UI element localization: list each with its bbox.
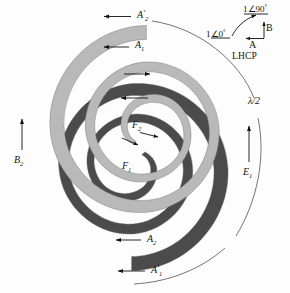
label-e1-sub: 1 xyxy=(249,172,252,179)
phasor-axis-b-label: B xyxy=(266,22,273,33)
figure-background xyxy=(0,0,290,293)
spiral-antenna-figure: A′2 A1 A2 A′1 B2 xyxy=(0,0,290,293)
phasor-axis-a-label: A xyxy=(249,39,257,50)
label-half-wavelength-text: λ/2 xyxy=(247,95,260,106)
label-e1-letter: E xyxy=(242,166,249,177)
polarization-label: LHCP xyxy=(232,51,257,61)
label-a1-prime-sub: 1 xyxy=(159,270,162,277)
label-f1-sub: 1 xyxy=(128,166,131,173)
figure-canvas: A′2 A1 A2 A′1 B2 xyxy=(0,0,290,293)
phasor-label-ninety: 1∠90° xyxy=(243,4,268,14)
label-half-wavelength: λ/2 xyxy=(247,95,260,106)
label-a1-sub: 1 xyxy=(141,45,144,52)
